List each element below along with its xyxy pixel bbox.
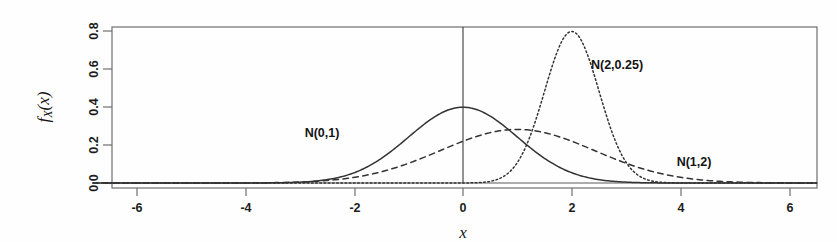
annotation-normal-1-2: N(1,2): [677, 155, 712, 169]
svg-text:fX(x): fX(x): [34, 91, 55, 122]
y-axis-title: fX(x): [34, 91, 55, 122]
x-ticklabel-6: 6: [787, 201, 794, 215]
y-axis-title-arg: (x): [34, 91, 53, 110]
y-ticklabel-3: 0.6: [87, 60, 101, 77]
annotation-normal-0-1: N(0,1): [305, 126, 340, 140]
normal-density-figure: 0.8 0.6 0.4 0.2 0.0 fX(x) -6 -4 -2: [0, 0, 837, 242]
x-ticklabel-1: -4: [240, 201, 251, 215]
x-ticklabel-3: 0: [460, 201, 467, 215]
annotation-normal-2-025: N(2,0.25): [591, 58, 643, 72]
x-ticklabel-5: 4: [678, 201, 685, 215]
density-curve-1: [93, 107, 817, 183]
y-ticklabel-1: 0.2: [87, 136, 101, 153]
y-ticklabel-4: 0.8: [87, 22, 101, 39]
plot-canvas: 0.8 0.6 0.4 0.2 0.0 fX(x) -6 -4 -2: [0, 0, 837, 242]
x-ticklabel-0: -6: [131, 201, 142, 215]
x-axis-title: x: [458, 223, 467, 242]
x-ticklabel-2: -2: [349, 201, 360, 215]
y-axis-tick-labels: 0.8 0.6 0.4 0.2 0.0: [87, 22, 101, 191]
x-axis-ticks: [137, 188, 790, 196]
x-ticklabel-4: 2: [569, 201, 576, 215]
y-ticklabel-2: 0.4: [87, 98, 101, 115]
x-axis-tick-labels: -6 -4 -2 0 2 4 6: [131, 201, 793, 215]
y-axis-ticks: [103, 31, 112, 183]
